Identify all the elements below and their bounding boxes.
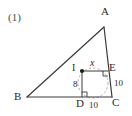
measure-label-id: 8 [73, 80, 78, 89]
problem-number: (1) [8, 12, 21, 23]
incenter-point [80, 69, 84, 73]
figure-page: (1) A B C D E I x 8 10 10 [0, 0, 132, 116]
vertex-label-C: C [112, 97, 119, 108]
measure-label-x: x [90, 58, 94, 68]
triangle-outline [27, 27, 112, 97]
vertex-label-A: A [101, 6, 109, 17]
measure-label-dc: 10 [89, 101, 98, 110]
vertex-label-E: E [109, 62, 116, 73]
vertex-label-B: B [14, 91, 21, 102]
measure-label-ec: 10 [114, 79, 123, 88]
vertex-label-D: D [76, 98, 84, 109]
inner-radius-lines [82, 71, 108, 97]
incenter-label-I: I [72, 63, 75, 73]
